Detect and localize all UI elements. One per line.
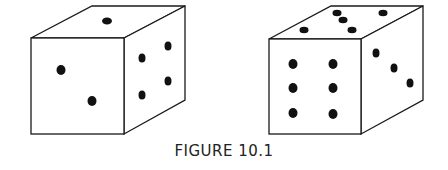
- die-left-top-pips: [102, 18, 112, 25]
- die-left: [31, 6, 185, 134]
- die-right-right-pip-1: [373, 49, 380, 58]
- die-right-top-pip-1: [333, 10, 342, 16]
- die-right-right-pip-3: [407, 79, 414, 88]
- die-right-right-pip-2: [391, 64, 398, 73]
- die-right-front-pip-5: [289, 108, 298, 118]
- die-right-front-pip-1: [289, 59, 298, 69]
- die-right-front-pip-3: [289, 83, 298, 93]
- figure-caption: FIGURE 10.1: [0, 142, 448, 160]
- die-left-right-pip-2: [165, 42, 172, 51]
- die-right-front-face: [269, 39, 361, 134]
- die-right: [269, 6, 423, 134]
- die-right-top-pip-5: [379, 10, 388, 16]
- die-left-top-pip-1: [102, 18, 112, 25]
- die-right-front-pip-2: [329, 59, 338, 69]
- die-right-top-pip-2: [339, 17, 348, 23]
- die-right-top-pip-4: [348, 27, 357, 33]
- die-left-right-pip-3: [139, 91, 146, 100]
- die-left-front-pip-1: [57, 65, 66, 75]
- die-left-front-pip-2: [88, 96, 97, 106]
- die-right-front-pip-6: [329, 109, 338, 119]
- die-right-front-pip-4: [329, 83, 338, 93]
- die-left-front-face: [31, 38, 124, 134]
- die-left-right-pip-1: [139, 54, 146, 63]
- die-left-right-pip-4: [165, 77, 172, 86]
- die-right-top-pip-3: [300, 27, 309, 33]
